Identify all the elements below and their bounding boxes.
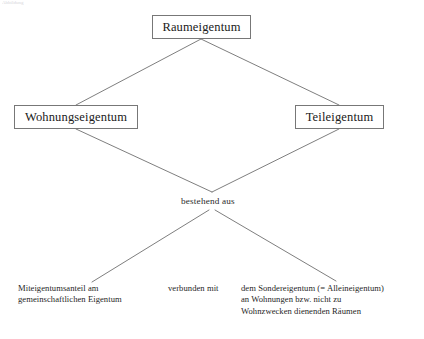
leaf-miteigentumsanteil: Miteigentumsanteil am gemeinschaftlichen… xyxy=(18,283,168,306)
node-wohnungseigentum-label: Wohnungseigentum xyxy=(25,110,127,125)
node-teileigentum: Teileigentum xyxy=(295,105,384,129)
node-raumeigentum-label: Raumeigentum xyxy=(162,20,240,35)
connector-hub-to-leaf-left xyxy=(92,210,209,282)
connector-root-to-left xyxy=(76,39,201,105)
leaf-sondereigentum: dem Sondereigentum (= Alleineigentum) an… xyxy=(241,283,421,317)
leaf-verbunden-mit-line-1: verbunden mit xyxy=(168,283,248,294)
leaf-sondereigentum-line-2: an Wohnungen bzw. nicht zu xyxy=(241,294,421,305)
scan-artifact-text: Abbildung xyxy=(2,0,46,5)
connector-root-to-right xyxy=(201,39,339,105)
leaf-miteigentumsanteil-line-1: Miteigentumsanteil am xyxy=(18,283,168,294)
node-raumeigentum: Raumeigentum xyxy=(152,15,251,39)
label-bestehend-aus: bestehend aus xyxy=(181,196,235,206)
node-wohnungseigentum: Wohnungseigentum xyxy=(14,105,138,129)
leaf-miteigentumsanteil-line-2: gemeinschaftlichen Eigentum xyxy=(18,294,168,305)
connector-right-to-hub xyxy=(212,129,339,192)
leaf-verbunden-mit: verbunden mit xyxy=(168,283,248,294)
diagram-canvas: Abbildung Raumeigentum Wohnungseigentum … xyxy=(0,0,424,339)
leaf-sondereigentum-line-1: dem Sondereigentum (= Alleineigentum) xyxy=(241,283,421,294)
connector-hub-to-leaf-right xyxy=(215,210,336,281)
connector-left-to-hub xyxy=(76,129,212,192)
node-teileigentum-label: Teileigentum xyxy=(306,110,374,125)
leaf-sondereigentum-line-3: Wohnzwecken dienenden Räumen xyxy=(241,306,421,317)
